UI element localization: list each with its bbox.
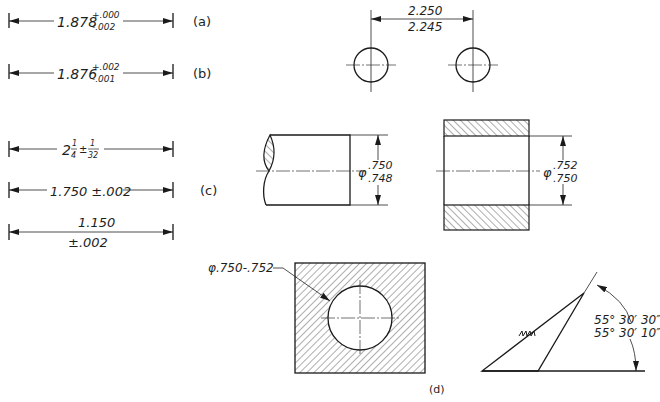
dim-c1-frac-den: 4 [71,151,76,160]
dim-c3-value: 1.150 [78,215,115,230]
hole-spacing-upper: 2.250 [408,4,443,18]
shaft-view: φ .750 .748 [256,135,393,205]
hole-spacing-lower: 2.245 [408,20,442,34]
dimension-c-fraction: 2 1 4 ± 1 32 [9,139,173,160]
dim-b-lower-tol: -.001 [92,74,115,84]
dim-c1-tol-num: 1 [90,139,95,148]
plate-view: φ.750-.752 (d) [208,261,445,396]
hole-spacing-view: 2.250 2.245 [346,4,498,92]
technical-drawing-canvas: 1.878 +.000 -.002 (a) 1.876 +.002 -.001 … [0,0,660,402]
bushing-diameter-lower: .750 [553,172,578,185]
dim-c1-frac-num: 1 [72,139,77,148]
angle-upper: 55° 30′ 30″ [594,313,660,327]
bushing-diameter-upper: .752 [553,159,578,172]
dim-a-upper-tol: +.000 [92,10,120,20]
dimension-c-plusminus: 1.750 ±.002 (c) [9,182,217,199]
label-a: (a) [193,14,211,29]
bushing-diameter-symbol: φ [543,165,552,180]
shaft-diameter-symbol: φ [358,165,367,180]
dimension-c-stacked: 1.150 ±.002 [9,215,173,250]
shaft-diameter-lower: .748 [368,172,393,185]
dim-c2-text: 1.750 ±.002 [50,184,131,199]
dimension-a: 1.878 +.000 -.002 (a) [9,10,211,32]
angle-lower: 55° 30′ 10″ [594,326,660,340]
shaft-diameter-upper: .750 [368,159,393,172]
plate-leader-text: φ.750-.752 [208,261,274,275]
bushing-view: φ .752 .750 [436,120,578,230]
dim-c3-tol: ±.002 [68,235,108,250]
dimension-b: 1.876 +.002 -.001 (b) [9,62,211,84]
dim-a-lower-tol: -.002 [92,22,116,32]
label-d: (d) [429,383,445,396]
dim-c1-whole: 2 [62,142,71,158]
label-b: (b) [193,66,211,81]
dim-c1-tol-den: 32 [88,151,98,160]
dim-b-upper-tol: +.002 [92,62,120,72]
dim-c1-tol-sign: ± [79,144,87,155]
label-c: (c) [200,183,217,198]
angle-view: 55° 30′ 30″ 55° 30′ 10″ [482,272,660,371]
